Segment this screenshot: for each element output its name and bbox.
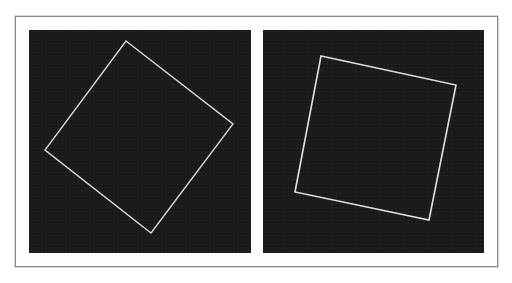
left-panel-rotated-square [29,30,251,253]
square-outline [45,41,233,233]
square-outline [295,56,456,220]
rotated-square-38deg-shape [29,30,251,253]
right-panel-rotated-square [263,30,484,253]
rotated-square-12deg-shape [263,30,484,253]
